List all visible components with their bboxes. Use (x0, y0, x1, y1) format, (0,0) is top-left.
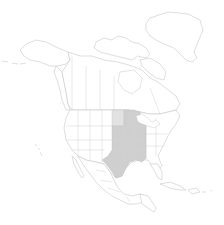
north-america-map (0, 0, 224, 225)
hispaniola (188, 188, 200, 194)
arctic-islands (94, 36, 150, 60)
central-america (140, 194, 156, 212)
range-map (0, 0, 224, 225)
greenland (146, 12, 203, 62)
caribbean-islands (202, 190, 212, 192)
cuba (160, 182, 186, 190)
alaska (20, 40, 70, 66)
hawaii (35, 144, 42, 156)
aleutian-islands (2, 61, 26, 64)
range-secondary (112, 110, 124, 126)
